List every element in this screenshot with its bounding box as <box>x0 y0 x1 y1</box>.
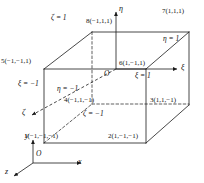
axis-label-x: x <box>78 158 82 166</box>
node-label-7: 7(1,1,1) <box>162 8 184 15</box>
node-label-3: 3(1,1,−1) <box>150 97 176 104</box>
face-label-zeta-top: ζ = 1 <box>51 14 67 22</box>
origin-label-global: O <box>36 150 41 158</box>
node-label-2: 2(1,−1,−1) <box>108 133 138 140</box>
node-label-4: 4(−1,1,−1) <box>64 97 94 104</box>
node-label-1: 1(−1,−1,−1) <box>24 133 58 140</box>
face-label-zeta-bottom: ζ = −1 <box>83 110 104 118</box>
axis-label-z: z <box>5 168 8 176</box>
axis-z-line <box>14 163 33 176</box>
origin-label-natural: O <box>104 70 109 78</box>
cube-edge-5-8 <box>44 32 92 69</box>
node-label-5: 5(−1,−1,1) <box>1 58 31 65</box>
figure-canvas: 8(−1,1,1) 7(1,1,1) 5(−1,−1,1) 6(1,−1,1) … <box>0 0 204 183</box>
face-label-xi-left: ξ = −1 <box>18 80 39 88</box>
axis-label-xi: ξ <box>181 64 184 72</box>
axis-label-zeta: ζ <box>22 109 25 117</box>
face-label-xi-right: ξ = 1 <box>135 72 151 80</box>
cube-diagram <box>0 0 204 183</box>
face-label-eta-right: η = 1 <box>163 35 179 43</box>
cube-edge-2-3 <box>146 105 189 143</box>
axis-label-eta: η <box>119 5 123 13</box>
axis-label-y: y <box>25 132 29 140</box>
node-label-8: 8(−1,1,1) <box>86 18 112 25</box>
face-label-eta-front: η = −1 <box>57 85 78 93</box>
node-label-6: 6(1,−1,1) <box>119 60 145 67</box>
